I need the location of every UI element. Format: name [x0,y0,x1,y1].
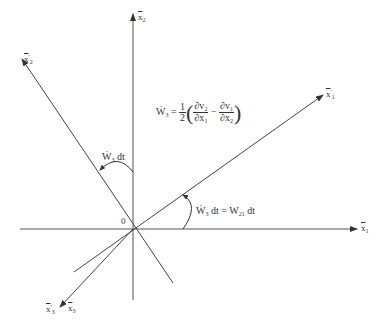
vorticity-equation: Ẇ3 = 12(∂v2∂x1 − ∂v1∂x2) [156,101,241,124]
rotation-arc-upper [100,161,133,172]
x3-axis-label: x3 [68,304,76,314]
x2-axis-label: x2 [138,13,146,23]
rotation-arc-lower [183,195,192,229]
x3-axis [60,229,133,307]
term1-fraction: ∂v2∂x1 [193,101,208,124]
rotation-label-lower: Ẇ3 dt = W21 dt [196,206,255,217]
rotation-label-upper: Ẇ3 dt [102,152,125,163]
x1-axis-label: x1 [361,224,369,234]
diagram-canvas [0,0,391,328]
x2-prime-axis-label: x′2 [24,54,33,65]
x1-prime-axis-label: x′1 [326,89,335,100]
term2-fraction: ∂v1∂x2 [219,101,234,124]
origin-label: 0 [121,217,126,226]
x3-prime-axis-label: x′3 [46,304,55,315]
x2-prime-axis [22,59,173,283]
